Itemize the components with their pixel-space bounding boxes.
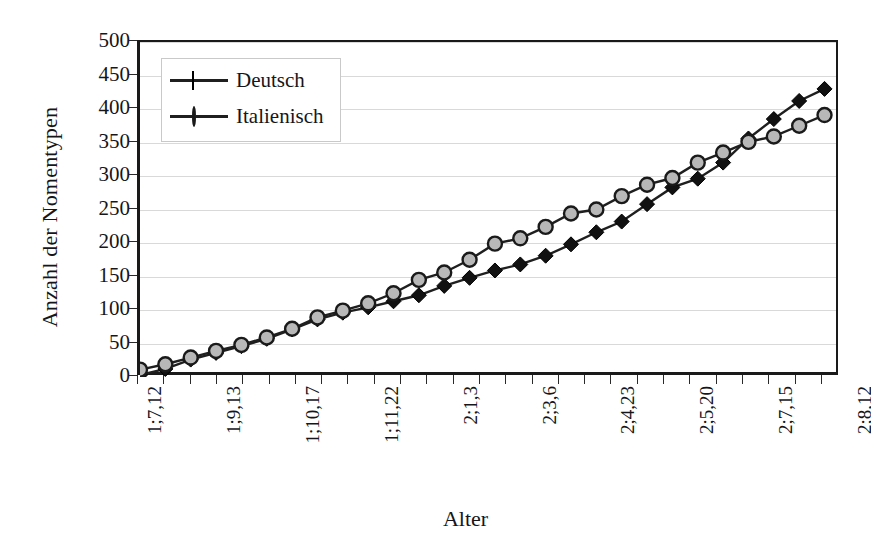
y-tick-label: 0 [48, 365, 130, 386]
x-tick-mark [689, 375, 690, 384]
x-tick-mark [742, 375, 743, 384]
legend-key-italienisch [170, 105, 228, 127]
x-tick-mark [426, 375, 427, 384]
data-point-marker [361, 296, 375, 310]
data-point-marker [665, 171, 679, 185]
x-tick-label: 1;7,12 [144, 384, 166, 432]
x-tick-mark [269, 375, 270, 384]
x-tick-mark [190, 375, 191, 384]
data-point-marker [513, 231, 527, 245]
data-point-marker [817, 81, 832, 96]
data-point-marker [260, 330, 274, 344]
legend-line-icon [170, 79, 228, 82]
x-tick-label: 2;4,23 [617, 384, 639, 432]
x-tick-mark [768, 375, 769, 384]
x-tick-mark [295, 375, 296, 384]
data-point-marker [716, 146, 730, 160]
data-point-marker [412, 273, 426, 287]
data-point-marker [463, 253, 477, 267]
x-tick-mark [479, 375, 480, 384]
x-tick-mark [795, 375, 796, 384]
y-tick-label: 500 [48, 30, 130, 51]
x-tick-mark [163, 375, 164, 384]
data-point-marker [615, 189, 629, 203]
x-tick-mark [347, 375, 348, 384]
x-tick-mark [400, 375, 401, 384]
y-tick-label: 250 [48, 197, 130, 218]
x-tick-mark [374, 375, 375, 384]
x-tick-mark [216, 375, 217, 384]
data-point-marker [158, 357, 172, 371]
x-tick-mark [137, 375, 138, 384]
y-tick-label: 300 [48, 164, 130, 185]
x-tick-label: 1;10,17 [302, 384, 324, 442]
y-tick-label: 450 [48, 63, 130, 84]
data-point-marker [818, 108, 832, 122]
legend-key-deutsch [170, 69, 228, 91]
data-point-marker [285, 322, 299, 336]
y-tick-label: 100 [48, 298, 130, 319]
diamond-marker-icon [192, 72, 194, 90]
data-point-marker [690, 171, 705, 186]
legend-item-deutsch: Deutsch [170, 67, 305, 93]
data-point-marker [563, 237, 578, 252]
y-tick-label: 150 [48, 264, 130, 285]
x-tick-mark [558, 375, 559, 384]
data-point-marker [209, 344, 223, 358]
data-point-marker [184, 351, 198, 365]
x-tick-label: 2;3,6 [539, 384, 561, 423]
x-tick-mark [453, 375, 454, 384]
data-point-marker [538, 248, 553, 263]
x-tick-mark [716, 375, 717, 384]
data-point-marker [462, 270, 477, 285]
data-point-marker [513, 257, 528, 272]
data-point-marker [767, 129, 781, 143]
x-tick-mark [505, 375, 506, 384]
data-point-marker [437, 265, 451, 279]
data-point-marker [589, 203, 603, 217]
x-tick-mark [584, 375, 585, 384]
data-point-marker [640, 178, 654, 192]
legend-label-italienisch: Italienisch [236, 104, 323, 129]
data-point-marker [691, 156, 705, 170]
data-point-marker [539, 220, 553, 234]
y-tick-label: 350 [48, 130, 130, 151]
x-axis-title: Alter [0, 506, 871, 532]
x-tick-mark [532, 375, 533, 384]
x-tick-label: 2;5,20 [696, 384, 718, 432]
circle-marker-icon [192, 108, 196, 126]
x-tick-mark [242, 375, 243, 384]
chart-legend: Deutsch Italienisch [161, 58, 341, 142]
legend-line-icon [170, 115, 228, 118]
x-tick-mark [663, 375, 664, 384]
data-point-marker [411, 288, 426, 303]
y-tick-label: 50 [48, 331, 130, 352]
data-point-marker [387, 286, 401, 300]
line-chart: Anzahl der Nomentypen 050100150200250300… [0, 0, 871, 559]
data-point-marker [336, 304, 350, 318]
x-tick-label: 1;11,22 [381, 384, 403, 441]
data-point-marker [564, 207, 578, 221]
x-axis-title-text: Alter [383, 506, 488, 531]
y-axis-tick-labels: 050100150200250300350400450500 [48, 0, 130, 559]
x-tick-label: 2;7,15 [775, 384, 797, 432]
x-tick-mark [321, 375, 322, 384]
data-point-marker [792, 119, 806, 133]
x-tick-label: 2;1,3 [460, 384, 482, 423]
data-point-marker [640, 197, 655, 212]
data-point-marker [792, 93, 807, 108]
data-point-marker [741, 135, 755, 149]
x-tick-mark [637, 375, 638, 384]
x-tick-label: 1;9,13 [223, 384, 245, 432]
x-tick-mark [821, 375, 822, 384]
y-tick-label: 200 [48, 231, 130, 252]
y-tick-label: 400 [48, 97, 130, 118]
data-point-marker [487, 263, 502, 278]
data-point-marker [488, 237, 502, 251]
x-tick-mark [610, 375, 611, 384]
data-point-marker [589, 225, 604, 240]
x-axis-tick-labels: 1;7,121;9,131;10,171;11,222;1,32;3,62;4,… [137, 384, 838, 500]
data-point-marker [614, 214, 629, 229]
legend-item-italienisch: Italienisch [170, 103, 323, 129]
data-point-marker [310, 310, 324, 324]
